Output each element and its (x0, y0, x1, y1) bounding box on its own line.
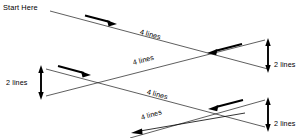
turn-label-left-middle: 2 lines (6, 79, 27, 86)
turn-arrow-right-lower (265, 97, 270, 132)
path-line-pass-3 (46, 40, 265, 96)
direction-arrow-pass-3 (207, 44, 242, 55)
turn-label-right-lower: 2 lines (274, 120, 295, 127)
direction-arrow-pass-4 (208, 100, 243, 111)
direction-arrow-pass-2 (58, 66, 91, 77)
serpentine-path-diagram: Start Here 4 lines 4 lines 4 lines 4 lin… (0, 0, 297, 138)
turn-arrow-left-middle (38, 65, 43, 100)
turn-arrow-right-upper (265, 38, 270, 73)
start-here-label: Start Here (3, 4, 38, 11)
turn-label-right-upper: 2 lines (274, 61, 295, 68)
